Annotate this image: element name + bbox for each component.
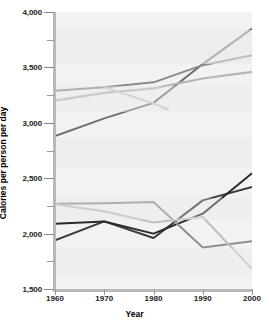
y-tick-major xyxy=(44,289,54,290)
y-tick-major xyxy=(44,12,54,13)
x-tick-label: 1970 xyxy=(95,294,113,303)
y-tick-minor xyxy=(47,206,54,207)
plot-area xyxy=(55,12,252,289)
texture-band xyxy=(55,138,252,168)
y-tick-major xyxy=(44,234,54,235)
texture-band xyxy=(55,248,252,276)
y-tick-minor xyxy=(47,95,54,96)
x-tick-label: 1990 xyxy=(194,294,212,303)
y-tick-major xyxy=(44,123,54,124)
y-tick-minor xyxy=(47,261,54,262)
calories-per-person-line-chart: 4,0003,5003,0002,5002,0001,500 196019701… xyxy=(0,0,269,325)
texture-band xyxy=(55,30,252,64)
texture-band xyxy=(55,198,252,220)
x-tick-label: 2000 xyxy=(243,294,261,303)
x-tick-label: 1980 xyxy=(145,294,163,303)
y-tick-minor xyxy=(47,40,54,41)
y-tick-label: 2,500 xyxy=(22,174,42,183)
y-tick-major xyxy=(44,178,54,179)
texture-band xyxy=(55,86,252,112)
y-axis-title: Calories per person per day xyxy=(0,63,8,263)
y-tick-label: 3,000 xyxy=(22,118,42,127)
y-tick-label: 3,500 xyxy=(22,63,42,72)
y-tick-label: 1,500 xyxy=(22,285,42,294)
y-tick-label: 4,000 xyxy=(22,8,42,17)
x-axis-title: Year xyxy=(0,309,269,319)
y-tick-minor xyxy=(47,151,54,152)
x-tick-label: 1960 xyxy=(46,294,64,303)
y-tick-major xyxy=(44,67,54,68)
y-tick-label: 2,000 xyxy=(22,229,42,238)
x-axis-line xyxy=(53,289,252,292)
